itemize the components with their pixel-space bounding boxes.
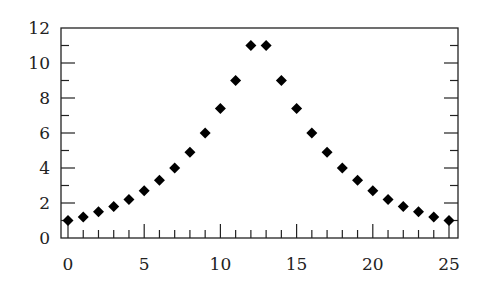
diamond-marker — [444, 215, 455, 226]
x-tick-label: 10 — [210, 254, 232, 274]
diamond-marker — [63, 215, 74, 226]
y-tick-label: 8 — [39, 88, 50, 108]
axis-ticks — [61, 46, 458, 239]
x-tick-label: 15 — [286, 254, 308, 274]
x-tick-label: 20 — [362, 254, 384, 274]
diamond-marker — [78, 212, 89, 223]
diamond-marker — [123, 194, 134, 205]
x-tick-label: 5 — [139, 254, 150, 274]
data-points — [63, 40, 455, 226]
diamond-marker — [276, 75, 287, 86]
x-tick-label: 25 — [438, 254, 460, 274]
diamond-marker — [352, 175, 363, 186]
diamond-marker — [398, 201, 409, 212]
diamond-marker — [184, 147, 195, 158]
scatter-chart: 0510152025024681012 — [0, 0, 487, 296]
diamond-marker — [245, 40, 256, 51]
diamond-marker — [200, 128, 211, 139]
diamond-marker — [154, 175, 165, 186]
x-tick-label: 0 — [63, 254, 74, 274]
y-tick-label: 4 — [39, 158, 50, 178]
diamond-marker — [428, 212, 439, 223]
y-tick-label: 6 — [39, 123, 50, 143]
tick-labels: 0510152025024681012 — [28, 18, 459, 274]
diamond-marker — [93, 206, 104, 217]
diamond-marker — [337, 163, 348, 174]
diamond-marker — [306, 128, 317, 139]
y-tick-label: 10 — [28, 53, 50, 73]
diamond-marker — [215, 103, 226, 114]
diamond-marker — [261, 40, 272, 51]
diamond-marker — [108, 201, 119, 212]
y-tick-label: 0 — [39, 228, 50, 248]
diamond-marker — [139, 185, 150, 196]
diamond-marker — [413, 206, 424, 217]
y-tick-label: 12 — [28, 18, 50, 38]
diamond-marker — [383, 194, 394, 205]
diamond-marker — [169, 163, 180, 174]
diamond-marker — [322, 147, 333, 158]
diamond-marker — [230, 75, 241, 86]
y-tick-label: 2 — [39, 193, 50, 213]
diamond-marker — [291, 103, 302, 114]
diamond-marker — [367, 185, 378, 196]
